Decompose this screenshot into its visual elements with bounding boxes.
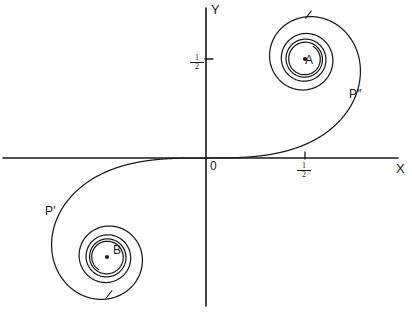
point-b-dot bbox=[105, 255, 109, 259]
axes-group bbox=[3, 8, 398, 306]
y-tick-numerator: 1 bbox=[190, 54, 204, 62]
cornu-spiral-figure: Y X 0 1 2 1 2 A B P″ P′ bbox=[0, 0, 412, 312]
p-upper-label: P″ bbox=[349, 88, 362, 100]
y-axis-label: Y bbox=[211, 3, 220, 16]
y-tick-label-half: 1 2 bbox=[190, 54, 204, 71]
origin-label: 0 bbox=[210, 160, 217, 172]
leader-ticks-group bbox=[106, 11, 311, 298]
x-axis-label: X bbox=[396, 162, 405, 175]
x-tick-denominator: 2 bbox=[297, 170, 311, 179]
cornu-spiral-plot bbox=[0, 0, 412, 312]
x-tick-label-half: 1 2 bbox=[297, 162, 311, 179]
p-lower-label: P′ bbox=[45, 205, 56, 217]
p-lower-leader bbox=[106, 291, 112, 298]
point-a-label: A bbox=[305, 54, 313, 66]
x-tick-numerator: 1 bbox=[297, 162, 311, 170]
point-b-label: B bbox=[113, 244, 121, 256]
y-tick-denominator: 2 bbox=[190, 62, 204, 71]
